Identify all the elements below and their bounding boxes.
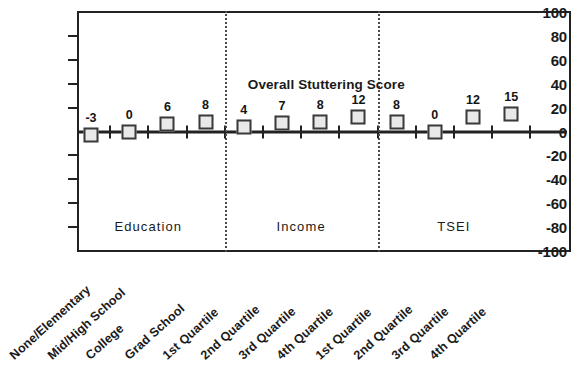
data-point-marker: [351, 110, 366, 125]
data-point-value-label: 6: [164, 100, 171, 114]
group-label-education: Education: [114, 219, 182, 234]
data-point-value-label: 12: [466, 93, 480, 107]
x-axis-tick: [147, 125, 149, 138]
x-axis-tick: [300, 125, 302, 138]
y-tick-mark: [68, 202, 77, 204]
y-tick-label: 100: [505, 4, 567, 21]
x-axis-tick: [109, 125, 111, 138]
y-tick-mark: [68, 178, 77, 180]
chart-title: Overall Stuttering Score: [248, 77, 405, 92]
data-point-marker: [236, 119, 251, 134]
data-point-marker: [122, 124, 137, 139]
y-tick-mark: [68, 154, 77, 156]
y-tick-label: 80: [505, 27, 567, 44]
data-point-value-label: 15: [504, 90, 518, 104]
data-point-value-label: 0: [126, 108, 133, 122]
y-tick-label: -80: [505, 219, 567, 236]
data-point-marker: [389, 114, 404, 129]
data-point-marker: [427, 124, 442, 139]
y-tick-mark: [68, 226, 77, 228]
data-point-value-label: 8: [317, 98, 324, 112]
x-axis-tick: [415, 125, 417, 138]
x-axis-tick: [491, 125, 493, 138]
group-separator-line: [378, 11, 380, 252]
y-tick-label: -100: [505, 243, 567, 260]
x-axis-tick: [262, 125, 264, 138]
y-tick-label: -60: [505, 195, 567, 212]
data-point-value-label: 4: [240, 103, 247, 117]
data-point-value-label: -3: [85, 111, 96, 125]
y-tick-mark: [68, 35, 77, 37]
x-axis-tick: [186, 125, 188, 138]
data-point-marker: [160, 117, 175, 132]
zero-value-line: [77, 130, 567, 133]
data-point-marker: [313, 114, 328, 129]
group-label-tsei: TSEI: [437, 219, 470, 234]
x-axis-tick: [529, 125, 531, 138]
data-point-marker: [504, 106, 519, 121]
y-tick-label: -40: [505, 171, 567, 188]
data-point-marker: [84, 128, 99, 143]
data-point-value-label: 8: [393, 98, 400, 112]
x-axis-tick: [453, 125, 455, 138]
y-tick-mark: [68, 59, 77, 61]
y-tick-mark: [68, 83, 77, 85]
group-label-income: Income: [276, 219, 325, 234]
y-tick-mark: [68, 107, 77, 109]
data-point-value-label: 12: [351, 93, 365, 107]
y-tick-label: 60: [505, 51, 567, 68]
data-point-value-label: 0: [431, 108, 438, 122]
data-point-marker: [466, 110, 481, 125]
data-point-marker: [198, 114, 213, 129]
y-tick-label: -20: [505, 147, 567, 164]
data-point-value-label: 7: [279, 99, 286, 113]
data-point-marker: [275, 116, 290, 131]
group-separator-line: [225, 11, 227, 252]
x-axis-tick: [338, 125, 340, 138]
data-point-value-label: 8: [202, 98, 209, 112]
